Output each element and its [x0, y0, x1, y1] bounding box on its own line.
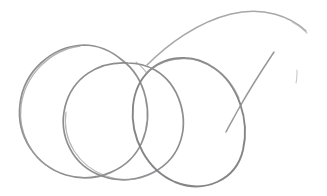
sketch-canvas [0, 0, 327, 196]
pencil-sketch-drawing [0, 0, 327, 196]
